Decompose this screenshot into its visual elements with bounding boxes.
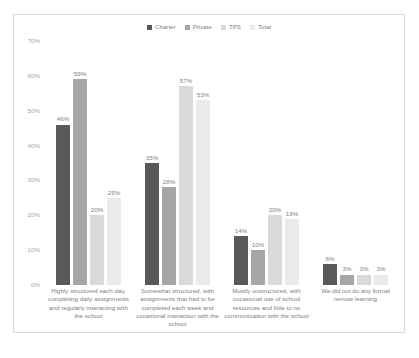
bar-value-label: 25% (108, 190, 120, 196)
bar-rect[interactable] (285, 219, 299, 285)
bar-private[interactable]: 28% (162, 41, 176, 285)
bar-rect[interactable] (73, 79, 87, 285)
legend-label: TPS (229, 24, 241, 30)
bar-rect[interactable] (323, 264, 337, 285)
bar-private[interactable]: 3% (340, 41, 354, 285)
y-axis-tick-label: 30% (28, 177, 40, 183)
legend-label: Charter (155, 24, 176, 30)
bar-total[interactable]: 3% (374, 41, 388, 285)
bar-rect[interactable] (56, 125, 70, 285)
bar-private[interactable]: 59% (73, 41, 87, 285)
bar-value-label: 6% (326, 256, 335, 262)
bar-value-label: 19% (286, 211, 298, 217)
y-axis-tick-label: 60% (28, 73, 40, 79)
bar-rect[interactable] (234, 236, 248, 285)
plot-area: 0%10%20%30%40%50%60%70% 46%59%20%25%35%2… (44, 41, 400, 285)
bar-group: 14%10%20%19% (222, 41, 311, 285)
bar-value-label: 20% (269, 207, 281, 213)
bar-rect[interactable] (162, 187, 176, 285)
bar-groups: 46%59%20%25%35%28%57%53%14%10%20%19%6%3%… (44, 41, 400, 285)
bar-tps[interactable]: 20% (268, 41, 282, 285)
bar-value-label: 59% (74, 71, 86, 77)
legend-swatch-icon (221, 25, 226, 30)
bar-rect[interactable] (145, 163, 159, 285)
bar-rect[interactable] (374, 275, 388, 285)
y-axis-tick-label: 10% (28, 247, 40, 253)
bar-group: 35%28%57%53% (133, 41, 222, 285)
bar-value-label: 46% (57, 116, 69, 122)
bar-total[interactable]: 25% (107, 41, 121, 285)
bar-group: 46%59%20%25% (44, 41, 133, 285)
legend-item-tps[interactable]: TPS (221, 24, 241, 30)
legend-item-private[interactable]: Private (185, 24, 212, 30)
y-axis-tick-label: 70% (28, 38, 40, 44)
bar-rect[interactable] (196, 100, 210, 285)
legend-item-total[interactable]: Total (250, 24, 271, 30)
y-axis-tick-label: 0% (31, 282, 40, 288)
bar-value-label: 3% (360, 266, 369, 272)
bar-tps[interactable]: 20% (90, 41, 104, 285)
bar-rect[interactable] (340, 275, 354, 285)
y-axis-tick-label: 50% (28, 108, 40, 114)
x-axis-category-label: Highly structured each day, completing d… (44, 287, 133, 329)
bar-charter[interactable]: 6% (323, 41, 337, 285)
bar-rect[interactable] (268, 215, 282, 285)
legend-swatch-icon (147, 25, 152, 30)
chart-container: CharterPrivateTPSTotal 0%10%20%30%40%50%… (13, 14, 405, 333)
bar-rect[interactable] (107, 198, 121, 285)
bar-value-label: 57% (180, 78, 192, 84)
y-axis-tick-label: 20% (28, 212, 40, 218)
x-axis-category-labels: Highly structured each day, completing d… (44, 287, 400, 329)
bar-rect[interactable] (179, 86, 193, 285)
bar-total[interactable]: 19% (285, 41, 299, 285)
bar-charter[interactable]: 46% (56, 41, 70, 285)
bar-value-label: 3% (343, 266, 352, 272)
x-axis-category-label: Mostly unstructured, with occasional use… (222, 287, 311, 329)
bar-tps[interactable]: 57% (179, 41, 193, 285)
bar-group: 6%3%3%3% (311, 41, 400, 285)
bar-value-label: 14% (235, 228, 247, 234)
bar-value-label: 10% (252, 242, 264, 248)
bar-total[interactable]: 53% (196, 41, 210, 285)
chart-legend: CharterPrivateTPSTotal (14, 24, 404, 30)
legend-label: Total (258, 24, 271, 30)
legend-swatch-icon (250, 25, 255, 30)
x-axis-category-label: We did not do any formal remote learning (311, 287, 400, 329)
bar-value-label: 53% (197, 92, 209, 98)
legend-item-charter[interactable]: Charter (147, 24, 176, 30)
bar-value-label: 20% (91, 207, 103, 213)
bar-rect[interactable] (357, 275, 371, 285)
bar-tps[interactable]: 3% (357, 41, 371, 285)
bar-rect[interactable] (90, 215, 104, 285)
legend-swatch-icon (185, 25, 190, 30)
legend-label: Private (193, 24, 212, 30)
x-axis-category-label: Somewhat structured, with assignments th… (133, 287, 222, 329)
bar-rect[interactable] (251, 250, 265, 285)
y-axis-tick-label: 40% (28, 142, 40, 148)
bar-charter[interactable]: 14% (234, 41, 248, 285)
bar-charter[interactable]: 35% (145, 41, 159, 285)
bar-private[interactable]: 10% (251, 41, 265, 285)
bar-value-label: 35% (146, 155, 158, 161)
bar-value-label: 3% (377, 266, 386, 272)
bar-value-label: 28% (163, 179, 175, 185)
